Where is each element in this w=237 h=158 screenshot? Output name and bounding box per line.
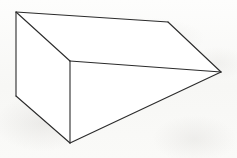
- front-lower-face: [70, 61, 221, 143]
- wedge-prism-drawing: Wedge prism line drawing: [0, 0, 237, 158]
- figure-canvas: Wedge prism line drawing: [0, 0, 237, 158]
